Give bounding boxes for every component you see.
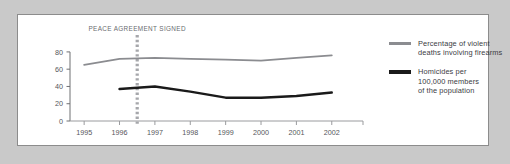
legend-label-firearms-line-0: Percentage of violent: [418, 39, 502, 48]
legend-swatch-homicides: [389, 70, 411, 74]
legend-label-firearms: Percentage of violent deaths involving f…: [418, 39, 502, 57]
x-tick-label-1995: 1995: [76, 128, 92, 137]
y-tick-label-80: 80: [55, 48, 63, 57]
x-tick-label-1998: 1998: [182, 128, 198, 137]
series-line-0: [84, 55, 332, 65]
legend-item-0: Percentage of violent deaths involving f…: [389, 39, 507, 57]
y-tick-label-20: 20: [55, 99, 63, 108]
legend-label-homicides-line-0: Homicides per: [418, 67, 479, 76]
y-tick-label-40: 40: [55, 82, 63, 91]
chart-legend: Percentage of violent deaths involving f…: [389, 39, 507, 105]
x-tick-label-1997: 1997: [147, 128, 163, 137]
legend-label-homicides: Homicides per 100,000 members of the pop…: [418, 67, 479, 95]
chart-frame: 0204060801995199619971998199920002001200…: [17, 14, 489, 146]
peace-agreement-label: PEACE AGREEMENT SIGNED: [88, 25, 185, 32]
legend-swatch-firearms: [389, 42, 411, 45]
legend-label-homicides-line-2: of the population: [418, 86, 479, 95]
x-tick-label-2000: 2000: [253, 128, 269, 137]
x-tick-label-1996: 1996: [112, 128, 128, 137]
y-tick-label-60: 60: [55, 65, 63, 74]
series-line-1: [120, 86, 332, 97]
legend-label-homicides-line-1: 100,000 members: [418, 77, 479, 86]
chart-page: 0204060801995199619971998199920002001200…: [0, 0, 510, 164]
x-tick-label-2002: 2002: [324, 128, 340, 137]
legend-item-1: Homicides per 100,000 members of the pop…: [389, 67, 507, 95]
x-tick-label-2001: 2001: [288, 128, 304, 137]
legend-label-firearms-line-1: deaths involving firearms: [418, 48, 502, 57]
y-tick-label-0: 0: [59, 117, 63, 126]
x-tick-label-1999: 1999: [218, 128, 234, 137]
